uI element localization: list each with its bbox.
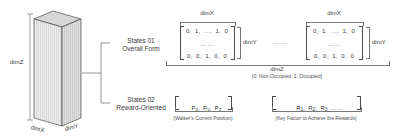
position-vector-brace xyxy=(175,107,233,112)
position-vector-caption: (Walker's Current Position) xyxy=(158,115,248,121)
matrix1-dimy-label: dimY xyxy=(243,39,257,46)
matrix2-rows: 0, 1, ..., 1, 0 ... ... 0, 0, 1, 0, 0 xyxy=(310,26,358,62)
matrix2-right-bracket xyxy=(359,26,363,60)
matrix2-row3: 0, 0, 1, 0, 0 xyxy=(310,53,358,60)
matrix2-row2: ... ... xyxy=(310,41,358,48)
reward-vector-brace xyxy=(272,107,362,112)
matrix2-dimy-label: dimY xyxy=(372,39,386,46)
matrix2-row1: 0, 1, ..., 1, 0 xyxy=(310,28,358,35)
matrix1-row1: 0, 1, ..., 1, 0 xyxy=(184,28,230,35)
matrix1-row3: 0, 0, 1, 0, 0 xyxy=(184,53,230,60)
cuboid-right-face xyxy=(62,19,81,126)
occupancy-legend: (0: Non-Occupied, 1: Occupied) xyxy=(227,73,347,79)
matrix1-dimy-indicator xyxy=(237,27,241,59)
states-01-line2: Overall Form xyxy=(112,45,170,53)
dimz-dimension-line xyxy=(27,14,33,120)
matrix1-dimx-label: dimX xyxy=(178,10,236,17)
dimz-axis-label: dimZ xyxy=(247,66,307,73)
matrix1-row2: ... ... xyxy=(184,41,230,48)
diagram-canvas: dimZ dimX dimY States 01 Overall Form St… xyxy=(0,0,396,138)
states-02-line1: States 02 xyxy=(110,96,172,104)
states-01-line1: States 01 xyxy=(112,37,170,45)
matrices-ellipsis: ... ... xyxy=(262,39,298,46)
matrix1-rows: 0, 1, ..., 1, 0 ... ... 0, 0, 1, 0, 0 xyxy=(184,26,230,62)
matrix2-dimy-indicator xyxy=(366,27,370,59)
cuboid-dimz-label: dimZ xyxy=(10,59,23,66)
states-02-line2: Reward-Oriented xyxy=(110,104,172,112)
cuboid-left-face xyxy=(34,19,62,126)
matrix1-right-bracket xyxy=(231,26,235,60)
matrix2-dimx-label: dimX xyxy=(306,10,362,17)
states-02-label: States 02 Reward-Oriented xyxy=(110,96,172,112)
reward-vector-caption: (Key Factor to Achieve the Rewards) xyxy=(266,115,366,121)
states-01-label: States 01 Overall Form xyxy=(112,37,170,53)
states-bracket xyxy=(82,43,110,103)
